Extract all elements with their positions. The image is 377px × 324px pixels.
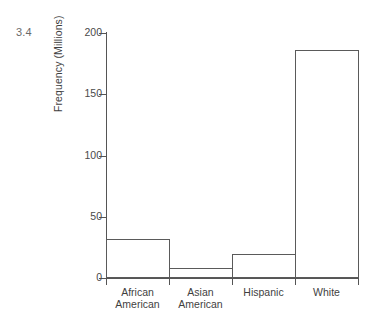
x-category-label: African American — [106, 287, 169, 310]
bar — [169, 268, 233, 278]
y-tick-label: 50 — [90, 210, 102, 222]
bar — [106, 239, 170, 278]
x-tick-mark — [169, 278, 170, 285]
x-category-label: Hispanic — [232, 287, 295, 299]
y-axis-title: Frequency (Millions) — [52, 98, 64, 112]
bar — [232, 254, 296, 279]
x-tick-mark — [232, 278, 233, 285]
figure-number-label: 3.4 — [16, 26, 32, 38]
bar — [295, 50, 359, 278]
y-tick-label: 0 — [96, 271, 102, 283]
x-tick-mark — [358, 278, 359, 285]
x-category-label: Asian American — [169, 287, 232, 310]
x-category-label: White — [295, 287, 358, 299]
y-tick-label: 150 — [84, 87, 102, 99]
figure-root: 3.4 Frequency (Millions) 050100150200 Af… — [0, 0, 377, 324]
plot-area: 050100150200 — [106, 33, 358, 278]
x-tick-mark — [295, 278, 296, 285]
y-tick-label: 200 — [84, 26, 102, 38]
y-tick-label: 100 — [84, 149, 102, 161]
x-tick-mark — [106, 278, 107, 285]
